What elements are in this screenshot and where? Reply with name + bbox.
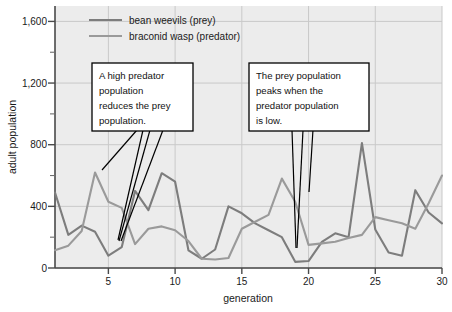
legend-label-prey: bean weevils (prey) bbox=[129, 15, 216, 26]
x-axis-title: generation bbox=[223, 292, 273, 304]
y-axis-tick-labels: 1,600 1,200 800 400 0 bbox=[22, 16, 47, 274]
x-tick-label: 5 bbox=[106, 276, 112, 287]
callout-2-line-3: predator population bbox=[256, 100, 339, 111]
callout-box-prey-peaks: The prey population peaks when the preda… bbox=[249, 63, 369, 131]
legend-label-predator: braconid wasp (predator) bbox=[129, 31, 240, 42]
y-tick-label: 0 bbox=[41, 263, 47, 274]
y-tick-label: 400 bbox=[30, 201, 47, 212]
callout-2-line-2: peaks when the bbox=[256, 85, 323, 96]
y-tick-label: 1,200 bbox=[22, 78, 47, 89]
y-axis-ticks bbox=[48, 21, 55, 268]
callout-1-line-4: population. bbox=[99, 115, 146, 126]
callout-1-line-3: reduces the prey bbox=[99, 100, 171, 111]
callout-1-line-2: population bbox=[99, 85, 143, 96]
plot-area-background bbox=[55, 6, 442, 268]
y-tick-label: 1,600 bbox=[22, 16, 47, 27]
predator-prey-line-chart: 1,600 1,200 800 400 0 5 10 15 20 25 30 g… bbox=[0, 0, 452, 312]
callout-2-line-4: is low. bbox=[256, 115, 282, 126]
x-axis-tick-labels: 5 10 15 20 25 30 bbox=[106, 276, 448, 287]
chart-figure: 1,600 1,200 800 400 0 5 10 15 20 25 30 g… bbox=[0, 0, 452, 312]
callout-1-line-1: A high predator bbox=[99, 70, 165, 81]
callout-box-predator-reduces-prey: A high predator population reduces the p… bbox=[92, 63, 193, 131]
x-tick-label: 15 bbox=[236, 276, 248, 287]
x-tick-label: 30 bbox=[436, 276, 448, 287]
y-tick-label: 800 bbox=[30, 139, 47, 150]
y-axis-title: adult population bbox=[6, 100, 18, 174]
callout-2-line-1: The prey population bbox=[256, 70, 341, 81]
x-tick-label: 10 bbox=[170, 276, 182, 287]
x-tick-label: 25 bbox=[370, 276, 382, 287]
x-axis-ticks bbox=[108, 268, 442, 274]
x-tick-label: 20 bbox=[303, 276, 315, 287]
